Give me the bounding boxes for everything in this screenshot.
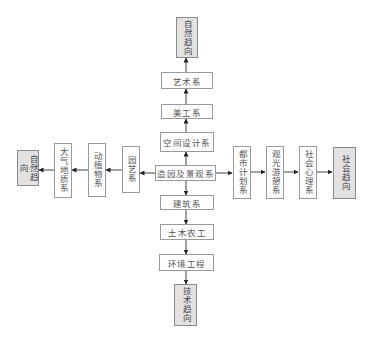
art-dept-box: 艺术系 [161, 72, 213, 89]
atmos-geology-dept-box: 大气地质系 [54, 143, 72, 198]
civil-agri-eng-box: 土木农工 [160, 224, 214, 240]
social-psychology-dept-box: 社会心理系 [299, 146, 317, 199]
urban-planning-dept-box: 都市计划系 [233, 146, 251, 199]
center-landscape-dept-box: 造园及景观系 [155, 165, 216, 181]
space-design-dept-box: 空间设计系 [160, 132, 214, 152]
tourism-recreation-dept-box: 观光游憩系 [266, 146, 284, 199]
horticulture-dept-box: 园艺系 [122, 146, 140, 193]
right-trend-box: 社会趋向 [333, 147, 356, 199]
down-trend-box: 技术趋向 [174, 284, 197, 326]
environmental-eng-box: 环境工程 [159, 254, 214, 271]
zoology-botany-dept-box: 动植物系 [88, 143, 106, 197]
fine-arts-dept-box: 美工系 [161, 104, 213, 119]
up-trend-box: 自然趋向 [176, 17, 198, 58]
left-trend-box: 自然趋向 [17, 150, 39, 186]
architecture-dept-box: 建筑系 [160, 195, 214, 210]
